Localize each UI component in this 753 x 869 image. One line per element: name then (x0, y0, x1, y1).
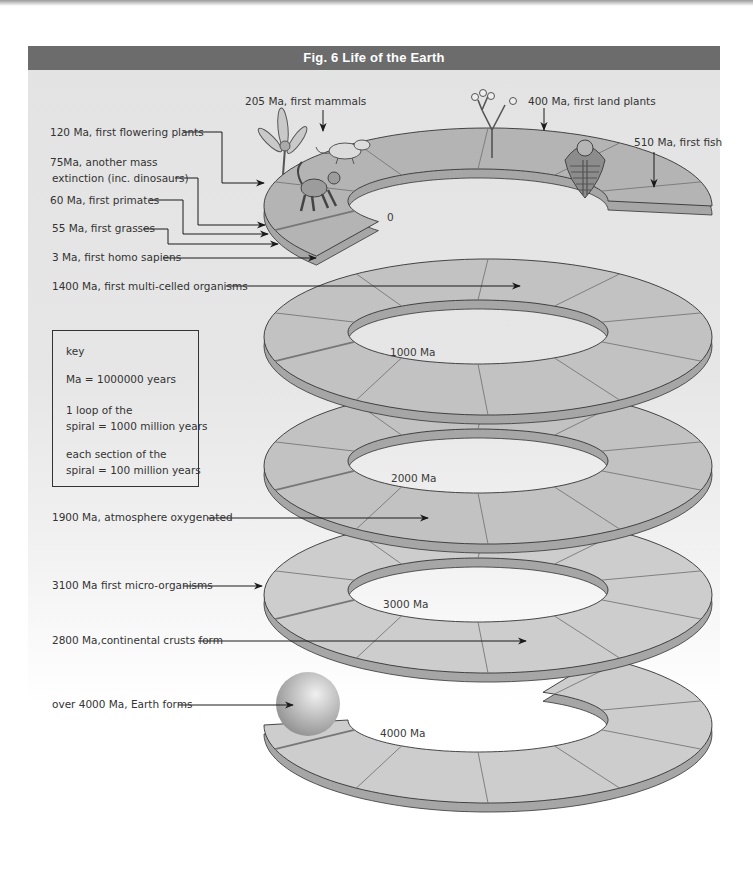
marker-1000-ma: 1000 Ma (390, 346, 436, 359)
label-first-flowering-plants: 120 Ma, first flowering plants (50, 126, 204, 139)
arrow-grasses (143, 229, 278, 244)
marker-3000-ma: 3000 Ma (383, 598, 429, 611)
label-first-primates: 60 Ma, first primates (50, 194, 159, 207)
earth-sphere-icon (276, 672, 340, 736)
arrow-extinction (175, 178, 265, 225)
label-first-grasses: 55 Ma, first grasses (52, 222, 155, 235)
key-section-line2: spiral = 100 million years (66, 464, 201, 477)
label-first-land-plants: 400 Ma, first land plants (528, 95, 656, 108)
label-mass-extinction-line2: extinction (inc. dinosaurs) (52, 172, 189, 185)
label-first-homo-sapiens: 3 Ma, first homo sapiens (52, 251, 181, 264)
label-atmosphere-oxygenated: 1900 Ma, atmosphere oxygenated (52, 511, 233, 524)
label-first-micro-organisms: 3100 Ma first micro-organisms (52, 579, 213, 592)
figure-canvas: Fig. 6 Life of the Earth (0, 0, 753, 869)
label-earth-forms: over 4000 Ma, Earth forms (52, 698, 192, 711)
label-mass-extinction-line1: 75Ma, another mass (50, 156, 158, 169)
key-ma-definition: Ma = 1000000 years (66, 373, 176, 386)
key-box: key Ma = 1000000 years 1 loop of the spi… (52, 330, 199, 487)
arrow-flowering-plants (183, 132, 264, 183)
key-heading: key (66, 345, 84, 358)
spiral-loop-1 (264, 259, 712, 424)
marker-0: 0 (387, 211, 394, 224)
marker-4000-ma: 4000 Ma (380, 727, 426, 740)
label-first-mammals: 205 Ma, first mammals (245, 95, 366, 108)
key-section-line1: each section of the (66, 448, 167, 461)
marker-2000-ma: 2000 Ma (391, 472, 437, 485)
label-first-fish: 510 Ma, first fish (634, 136, 722, 149)
key-loop-line1: 1 loop of the (66, 404, 132, 417)
label-first-multi-celled: 1400 Ma, first multi-celled organisms (52, 280, 248, 293)
label-continental-crusts: 2800 Ma,continental crusts form (52, 634, 223, 647)
key-loop-line2: spiral = 1000 million years (66, 420, 207, 433)
